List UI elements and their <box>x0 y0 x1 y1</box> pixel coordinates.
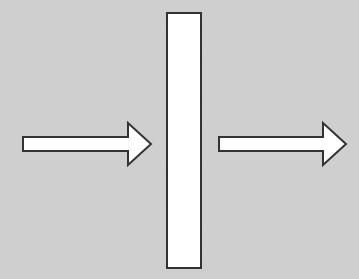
barrier-rectangle <box>167 13 201 268</box>
diagram-canvas <box>0 0 359 279</box>
diagram-svg <box>0 0 359 279</box>
